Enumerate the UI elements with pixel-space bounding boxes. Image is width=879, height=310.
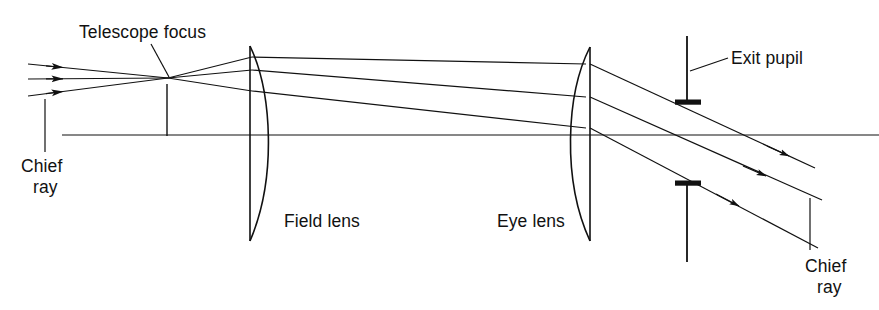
chief-ray-left-label-line1: Chief [21,156,62,176]
exit-ray-bundle [590,64,822,248]
eye-lens-convex-face [570,47,590,241]
focus-to-field-lens-rays [168,57,252,91]
incoming-ray-bundle [28,64,168,96]
relay-lower-ray-segment-a [168,78,252,91]
exit-pupil-leader [690,58,728,71]
relay-upper-ray-segment-b [252,57,586,64]
exit-pupil-upper-bar [675,100,701,105]
exit-pupil-stop [675,36,701,262]
telescope-focus-leader [151,44,169,77]
relay-lower-ray-segment-b [252,91,586,128]
optical-ray-diagram: Telescope focus Chief ray Field lens Eye… [0,0,879,310]
field-lens-label: Field lens [284,211,360,231]
diagram-canvas: Telescope focus Chief ray Field lens Eye… [0,0,879,310]
exit-chief-ray-arrow [743,166,766,176]
field-lens [250,46,268,241]
chief-ray-right-label-line2: ray [817,277,842,297]
exit-lower-ray [590,128,818,248]
exit-pupil-lower-bar [675,181,701,186]
exit-chief-ray [590,97,822,200]
eye-lens-label: Eye lens [497,211,565,231]
incoming-lower-ray-arrow [46,92,63,94]
field-lens-to-eye-lens-rays [252,57,586,128]
exit-lower-ray-arrow [716,194,739,206]
eye-lens [570,47,590,241]
exit-pupil-label: Exit pupil [731,48,803,68]
chief-ray-right-label-line1: Chief [805,256,846,276]
chief-ray-left-label-line2: ray [33,177,58,197]
relay-chief-ray-segment-b [252,70,586,97]
relay-upper-ray-segment-a [168,57,252,78]
field-lens-convex-face [250,46,268,241]
telescope-focus-label: Telescope focus [79,22,206,42]
relay-chief-ray-segment-a [168,70,252,78]
incoming-upper-ray-arrow [46,66,63,68]
exit-upper-ray-arrow [767,146,789,156]
